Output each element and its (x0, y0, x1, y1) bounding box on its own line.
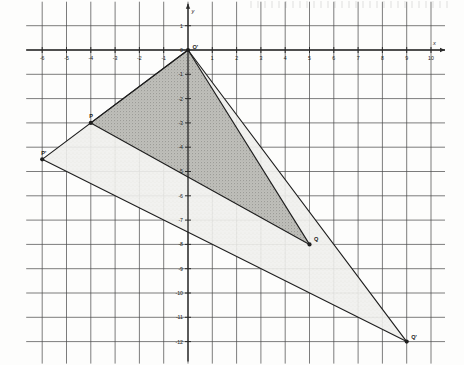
scanned-page-canvas: xy -6-5-4-3-2-112345678910-12-11-10-9-8-… (0, 0, 464, 365)
point-marker-P (89, 121, 93, 125)
y-axis-label: y (191, 8, 196, 14)
y-tick-label: -3 (178, 120, 183, 126)
x-tick-label: -1 (161, 55, 166, 61)
x-tick-label: 1 (211, 55, 214, 61)
y-tick-label: -6 (178, 193, 183, 199)
x-tick-label: 2 (235, 55, 238, 61)
y-tick-label: -1 (178, 71, 183, 77)
y-axis-arrow (186, 4, 190, 9)
point-marker-Op (186, 48, 190, 52)
point-label-Q: Q (314, 236, 319, 242)
point-label-Op: O' (193, 44, 199, 50)
coordinate-plane-diagram: xy -6-5-4-3-2-112345678910-12-11-10-9-8-… (0, 0, 464, 365)
x-tick-label: 6 (332, 55, 335, 61)
point-marker-Qp (405, 340, 409, 344)
y-tick-label: 0 (180, 47, 183, 53)
point-label-Pp: P' (41, 150, 47, 156)
point-marker-Pp (40, 157, 44, 161)
y-tick-label: -5 (178, 168, 183, 174)
x-axis-arrow (440, 48, 445, 52)
y-tick-label: -7 (178, 217, 183, 223)
point-label-P: P (89, 113, 93, 119)
x-tick-label: 10 (428, 55, 434, 61)
x-tick-label: -6 (40, 55, 45, 61)
y-tick-label: -4 (178, 144, 183, 150)
x-tick-label: -3 (113, 55, 118, 61)
point-label-Qp: Q' (411, 334, 417, 340)
point-marker-Q (307, 242, 311, 246)
x-tick-label: 8 (381, 55, 384, 61)
x-tick-label: 9 (405, 55, 408, 61)
x-tick-label: 4 (284, 55, 287, 61)
x-tick-label: -5 (64, 55, 69, 61)
x-tick-label: -4 (88, 55, 93, 61)
y-tick-label: -12 (176, 339, 184, 345)
x-tick-label: 3 (259, 55, 262, 61)
y-tick-label: -8 (178, 241, 183, 247)
y-tick-label: -11 (176, 314, 183, 320)
y-tick-label: -10 (176, 290, 184, 296)
x-tick-label: 7 (357, 55, 360, 61)
x-tick-label: 5 (308, 55, 311, 61)
y-tick-label: -9 (178, 266, 183, 272)
y-tick-label: -2 (178, 96, 183, 102)
x-tick-label: -2 (137, 55, 142, 61)
y-tick-label: 1 (180, 23, 183, 29)
x-axis-label: x (432, 40, 436, 46)
